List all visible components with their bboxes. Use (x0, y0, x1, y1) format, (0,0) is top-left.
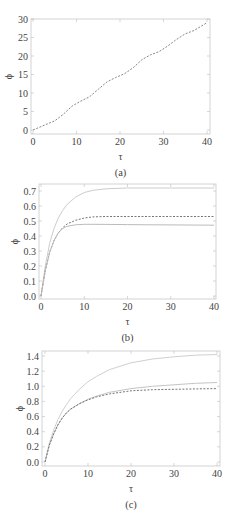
y-tick-label: 1.0 (27, 381, 40, 392)
y-tick-label: 0.4 (27, 426, 40, 437)
y-tick-label: 20 (18, 51, 28, 62)
x-tick-label: 40 (212, 468, 222, 479)
x-tick-label: 40 (209, 301, 219, 312)
y-tick-label: 0.6 (24, 201, 37, 212)
y-tick-label: 1.4 (27, 351, 40, 362)
plot-frame (39, 184, 216, 299)
series-upper-solid (41, 188, 214, 296)
x-tick-label: 10 (83, 468, 93, 479)
x-axis-label: τ (129, 483, 133, 494)
x-tick-label: 20 (115, 136, 125, 147)
y-tick-label: 10 (18, 88, 28, 99)
figure: 010203040051015202530τϕ(a) 0102030400.00… (0, 0, 233, 530)
y-tick-label: 0 (23, 125, 28, 136)
x-tick-label: 20 (126, 468, 136, 479)
axis-ticks (42, 351, 220, 466)
y-tick-label: 0.0 (24, 291, 37, 302)
axis-ticks (31, 19, 210, 134)
y-tick-label: 0.8 (27, 396, 40, 407)
series-dashed (41, 217, 214, 297)
plot-frame (31, 19, 210, 134)
series-middle-solid (45, 383, 217, 463)
x-tick-label: 0 (39, 301, 44, 312)
y-tick-label: 0.2 (24, 261, 37, 272)
series-dashed (45, 389, 217, 462)
y-tick-label: 0.0 (27, 457, 40, 468)
x-tick-label: 10 (72, 136, 82, 147)
y-tick-label: 25 (18, 32, 28, 43)
y-tick-label: 0.3 (24, 246, 37, 257)
y-axis-label: ϕ (3, 74, 14, 79)
series-upper-solid (45, 355, 217, 463)
x-axis-label: τ (125, 316, 129, 327)
series-dashed (33, 23, 207, 130)
x-tick-label: 30 (166, 301, 176, 312)
x-tick-label: 0 (43, 468, 48, 479)
y-tick-label: 5 (23, 106, 28, 117)
y-axis-label: ϕ (9, 239, 20, 244)
y-tick-label: 0.6 (27, 411, 40, 422)
y-tick-label: 0.5 (24, 216, 37, 227)
x-tick-label: 0 (31, 136, 36, 147)
y-tick-label: 0.1 (24, 276, 37, 287)
x-tick-label: 40 (202, 136, 212, 147)
y-tick-label: 30 (18, 14, 28, 25)
y-tick-label: 15 (18, 69, 28, 80)
panel-caption: (a) (115, 167, 127, 179)
panel-caption: (b) (121, 332, 134, 344)
series-lower-solid (41, 224, 214, 296)
chart-panel-b: 0102030400.00.10.20.30.40.50.60.7τϕ(b) (9, 184, 219, 344)
chart-panel-a: 010203040051015202530τϕ(a) (3, 14, 212, 180)
y-axis-label: ϕ (14, 406, 25, 411)
y-tick-label: 0.7 (24, 186, 37, 197)
y-tick-label: 1.2 (27, 366, 40, 377)
plot-frame (42, 351, 220, 466)
x-tick-label: 20 (123, 301, 133, 312)
panel-caption: (c) (125, 499, 137, 511)
x-axis-label: τ (118, 151, 122, 162)
y-tick-label: 0.2 (27, 441, 40, 452)
x-tick-label: 10 (79, 301, 89, 312)
x-tick-label: 30 (169, 468, 179, 479)
axis-ticks (39, 184, 216, 299)
chart-panel-c: 0102030400.00.20.40.60.81.01.21.4τϕ(c) (14, 351, 222, 512)
x-tick-label: 30 (159, 136, 169, 147)
y-tick-label: 0.4 (24, 231, 37, 242)
